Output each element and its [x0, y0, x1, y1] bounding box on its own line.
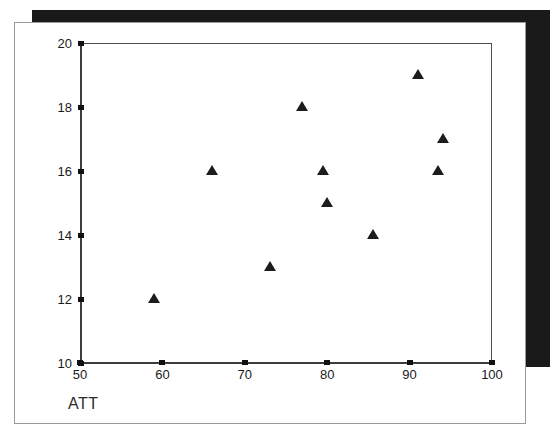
figure-card — [14, 22, 526, 424]
figure-page: 101214161820 5060708090100 ATT — [0, 0, 560, 437]
